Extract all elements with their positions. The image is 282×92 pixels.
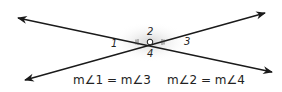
vertical-angles-diagram: 1 2 3 4 m∠1 = m∠3 m∠2 = m∠4 [0,0,282,92]
angle-label-1: 1 [111,38,117,49]
angle-label-3: 3 [184,36,190,47]
angle-label-2: 2 [147,26,153,37]
intersection-point [147,39,153,45]
equation-2-4: m∠2 = m∠4 [167,73,245,87]
angle-label-4: 4 [147,48,153,59]
equation-1-3: m∠1 = m∠3 [73,73,151,87]
